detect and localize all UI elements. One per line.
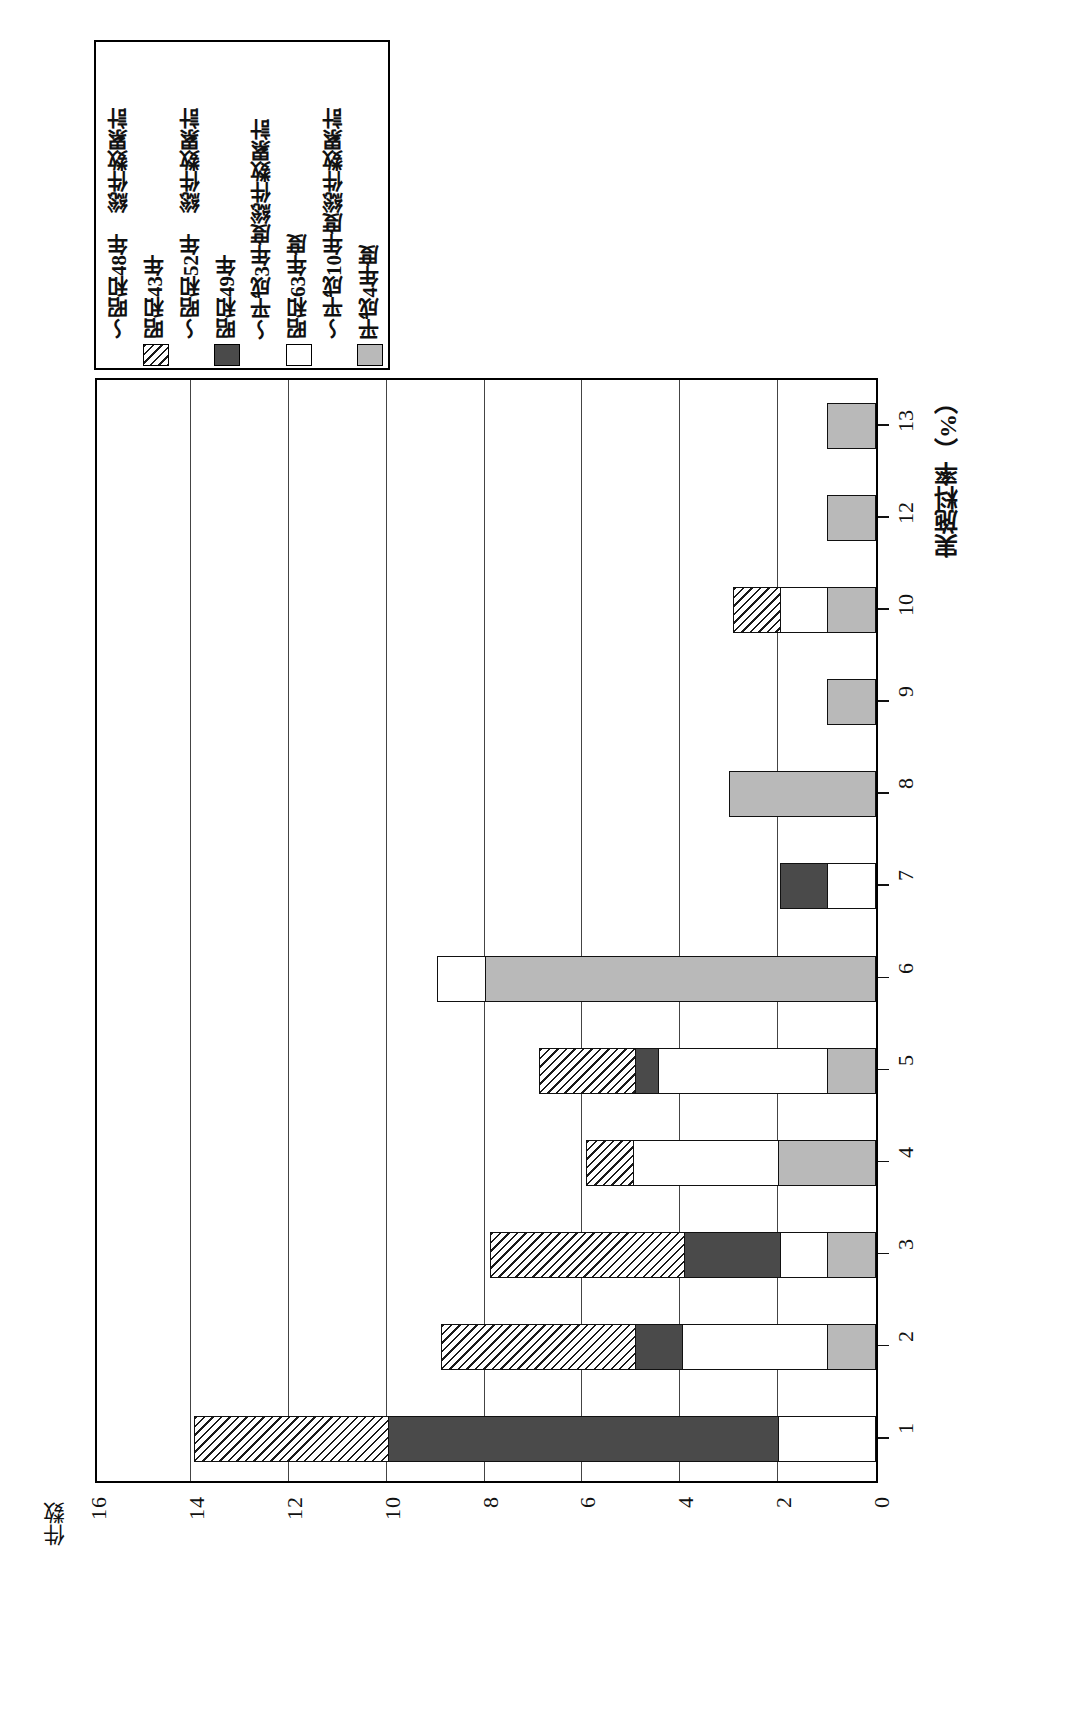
category-axis-title: 実施料率（%） <box>930 390 965 558</box>
bar-segment-showa63_heisei3-7 <box>827 863 876 909</box>
category-tick-mark-4 <box>878 1161 889 1163</box>
legend-item-label: ～昭和52年 総件数累計 <box>181 108 202 339</box>
legend-item-label: ～平成10年度総件数累計 <box>324 108 345 339</box>
legend-swatch-hatch <box>143 344 169 366</box>
legend-item-3: ～平成3年度総件数累計 <box>245 48 281 366</box>
legend-item-label: 昭和43年 <box>145 255 166 339</box>
bar-group-10 <box>97 587 876 633</box>
bar-segment-heisei4_10-2 <box>827 1324 876 1370</box>
legend-swatch-dark <box>214 344 240 366</box>
bar-segment-showa63_heisei3-1 <box>778 1416 876 1462</box>
legend-swatch-gray <box>357 344 383 366</box>
bar-segment-showa43_48-10 <box>733 587 782 633</box>
category-tick-mark-6 <box>878 977 889 979</box>
category-tick-10: 10 <box>893 594 919 616</box>
value-tick-6: 6 <box>575 1496 601 1508</box>
category-tick-mark-8 <box>878 792 889 794</box>
category-tick-mark-2 <box>878 1345 889 1347</box>
gridline-2 <box>777 380 778 1481</box>
value-tick-4: 4 <box>673 1496 699 1508</box>
bar-group-7 <box>97 863 876 909</box>
legend-item-label: ～昭和48年 総件数累計 <box>109 108 130 339</box>
bar-segment-showa63_heisei3-3 <box>780 1232 829 1278</box>
bar-segment-showa63_heisei3-2 <box>682 1324 829 1370</box>
category-tick-2: 2 <box>893 1331 919 1342</box>
bar-group-1 <box>97 1416 876 1462</box>
chart-page: 図2－27－2 ゴム製品（イニシャル 無）の実施料率別契約件数 平成4年度～平成… <box>0 0 1074 1714</box>
bar-group-3 <box>97 1232 876 1278</box>
value-tick-0: 0 <box>869 1496 895 1508</box>
bar-segment-heisei4_10-9 <box>827 679 876 725</box>
plot-area <box>95 378 878 1483</box>
bar-segment-heisei4_10-3 <box>827 1232 876 1278</box>
category-tick-mark-5 <box>878 1069 889 1071</box>
category-tick-9: 9 <box>893 686 919 697</box>
legend-items: 平成4年度～平成10年度総件数累計昭和63年度～平成3年度総件数累計昭和49年～… <box>96 42 392 372</box>
legend-item-label: ～平成3年度総件数累計 <box>252 119 273 340</box>
legend-item-7: ～昭和48年 総件数累計 <box>102 48 138 366</box>
bar-segment-heisei4_10-6 <box>485 956 877 1002</box>
bar-segment-showa43_48-2 <box>441 1324 637 1370</box>
gridline-12 <box>288 380 289 1481</box>
bar-group-9 <box>97 679 876 725</box>
chart-legend: 平成4年度～平成10年度総件数累計昭和63年度～平成3年度総件数累計昭和49年～… <box>94 40 390 370</box>
legend-item-6: 昭和43年 <box>138 48 174 366</box>
category-tick-12: 12 <box>893 502 919 524</box>
legend-swatch-none <box>178 344 204 366</box>
bar-segment-showa43_48-4 <box>586 1140 635 1186</box>
category-tick-mark-9 <box>878 700 889 702</box>
category-tick-8: 8 <box>893 778 919 789</box>
bar-segment-heisei4_10-12 <box>827 495 876 541</box>
legend-item-label: 昭和49年 <box>217 255 238 339</box>
value-tick-14: 14 <box>184 1496 210 1520</box>
legend-swatch-none <box>107 344 133 366</box>
category-tick-mark-1 <box>878 1437 889 1439</box>
bar-group-4 <box>97 1140 876 1186</box>
bar-segment-heisei4_10-5 <box>827 1048 876 1094</box>
value-tick-12: 12 <box>282 1496 308 1520</box>
gridline-14 <box>190 380 191 1481</box>
category-tick-3: 3 <box>893 1239 919 1250</box>
bar-group-13 <box>97 403 876 449</box>
legend-swatch-none <box>321 344 347 366</box>
value-axis-title: 件数 <box>46 1502 68 1546</box>
bar-segment-heisei4_10-4 <box>778 1140 876 1186</box>
legend-item-0: 平成4年度 <box>352 48 388 366</box>
category-tick-1: 1 <box>893 1423 919 1434</box>
legend-swatch-white <box>286 344 312 366</box>
bar-segment-showa63_heisei3-4 <box>633 1140 780 1186</box>
bar-segment-showa63_heisei3-5 <box>658 1048 829 1094</box>
gridline-8 <box>484 380 485 1481</box>
category-tick-5: 5 <box>893 1055 919 1066</box>
bar-segment-heisei4_10-10 <box>827 587 876 633</box>
category-tick-mark-3 <box>878 1253 889 1255</box>
bar-segment-showa43_48-3 <box>490 1232 686 1278</box>
value-tick-16: 16 <box>86 1496 112 1520</box>
category-tick-13: 13 <box>893 410 919 432</box>
gridline-6 <box>581 380 582 1481</box>
bar-segment-showa49_52-2 <box>635 1324 684 1370</box>
legend-item-label: 昭和63年度 <box>288 234 309 339</box>
bar-group-8 <box>97 771 876 817</box>
bar-segment-showa43_48-5 <box>539 1048 637 1094</box>
category-tick-mark-7 <box>878 884 889 886</box>
legend-item-4: 昭和49年 <box>209 48 245 366</box>
category-tick-4: 4 <box>893 1147 919 1158</box>
gridline-4 <box>679 380 680 1481</box>
legend-item-2: 昭和63年度 <box>281 48 317 366</box>
bar-group-2 <box>97 1324 876 1370</box>
legend-item-label: 平成4年度 <box>360 245 381 340</box>
category-tick-6: 6 <box>893 963 919 974</box>
bar-segment-heisei4_10-8 <box>729 771 876 817</box>
category-tick-mark-10 <box>878 608 889 610</box>
category-tick-7: 7 <box>893 870 919 881</box>
category-tick-mark-12 <box>878 516 889 518</box>
bar-segment-showa49_52-5 <box>635 1048 659 1094</box>
value-tick-8: 8 <box>478 1496 504 1508</box>
bar-segment-showa63_heisei3-6 <box>437 956 486 1002</box>
legend-swatch-none <box>250 344 276 366</box>
category-tick-mark-13 <box>878 424 889 426</box>
legend-item-5: ～昭和52年 総件数累計 <box>174 48 210 366</box>
bar-segment-showa49_52-3 <box>684 1232 782 1278</box>
bar-segment-showa49_52-1 <box>388 1416 780 1462</box>
